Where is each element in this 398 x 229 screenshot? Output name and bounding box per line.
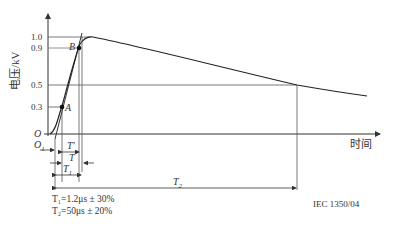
formula-t2: T₂=50μs ± 20% (52, 206, 112, 216)
tick-1-0: 1.0 (31, 32, 43, 42)
formula-t1: T₁=1.2μs ± 30% (52, 194, 115, 204)
label-t-prime: T′ (67, 140, 76, 151)
tick-0-3: 0.3 (31, 102, 43, 112)
label-b: B (69, 41, 75, 52)
tick-0-5: 0.5 (31, 80, 43, 90)
point-a (60, 105, 65, 110)
label-o1: O1 (34, 139, 45, 153)
tick-0-9: 0.9 (31, 43, 43, 53)
label-a: A (64, 102, 72, 113)
point-b (77, 46, 82, 51)
reference-label: IEC 1350/04 (313, 199, 360, 209)
x-axis-label: 时间 (350, 138, 372, 150)
label-o: O (34, 128, 41, 139)
label-t: T (69, 152, 76, 163)
y-axis-label: 电压/kV (9, 51, 21, 90)
impulse-waveform-diagram: 电压/kV 1.0 0.9 0.5 0.3 A B O O1 T′ T T1 T… (0, 0, 398, 229)
